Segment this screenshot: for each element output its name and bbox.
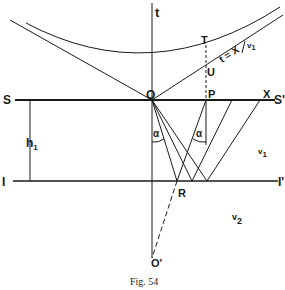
label-line-equation-denominator: v1: [247, 41, 255, 51]
label-v2: v2: [232, 212, 242, 226]
figure-caption: Fig. 54: [130, 276, 158, 287]
label-r-point: R: [178, 187, 186, 199]
ray-o-2: [152, 100, 192, 181]
ray-up-3: [207, 100, 260, 181]
direct-wave-line-left: [10, 20, 152, 100]
equation-divider: [242, 41, 245, 53]
label-s: S: [3, 93, 11, 107]
alpha-arc-right: [193, 139, 206, 142]
label-alpha-right: α: [196, 128, 203, 139]
label-o-prime: O': [151, 257, 163, 269]
ray-o-r: [152, 100, 177, 181]
label-o-origin: O: [146, 88, 155, 102]
label-u-point: U: [207, 66, 215, 78]
alpha-arc-left: [152, 139, 164, 142]
label-alpha-left: α: [153, 128, 160, 139]
seismic-refraction-diagram: t T U O P X S S' I I' h1 α α R O' v1 v2 …: [0, 0, 285, 290]
label-s-prime: S': [274, 93, 285, 107]
label-t-axis: t: [155, 5, 160, 20]
label-i: I: [2, 175, 5, 189]
label-i-prime: I': [278, 175, 284, 189]
label-p-point: P: [208, 88, 215, 100]
ray-up-2: [192, 100, 232, 181]
label-h1: h1: [26, 136, 38, 152]
label-x-point: X: [263, 88, 271, 100]
label-line-equation: t = X: [217, 44, 241, 65]
ray-r-p: [177, 100, 206, 181]
reflection-hyperbola: [26, 7, 280, 53]
image-source-line: [152, 181, 177, 258]
label-t-point: T: [201, 34, 208, 46]
label-v1: v1: [258, 147, 267, 159]
